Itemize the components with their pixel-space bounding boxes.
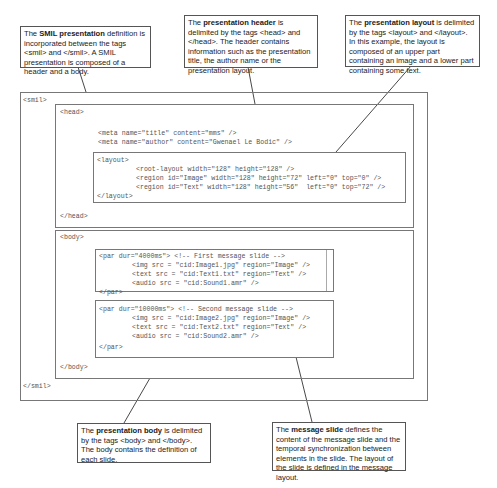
par1-text-line: <text src = "cid:Text1.txt" region="Text… (132, 270, 306, 279)
callout-text: The (349, 18, 364, 27)
par2-close-tag: </par> (99, 343, 123, 352)
meta-author-line: <meta name="author" content="Gwenael Le … (98, 138, 292, 147)
callout-bold-term: presentation layout (364, 18, 434, 27)
callout-bold-term: presentation header (203, 18, 276, 27)
region-image-line: <region id="Image" width="128" height="7… (136, 174, 381, 183)
region-text-line: <region id="Text" width="128" height="56… (136, 183, 385, 192)
callout-message-slide: The message slide defines the content of… (272, 422, 406, 471)
head-close-tag: </head> (60, 212, 88, 221)
callout-presentation-body: The presentation body is delimited by th… (77, 423, 211, 463)
smil-open-tag: <smil> (23, 96, 47, 105)
callout-text: The (276, 425, 291, 434)
callout-bold-term: message slide (291, 425, 343, 434)
body-close-tag: </body> (60, 363, 88, 372)
callout-text: The (188, 18, 203, 27)
callout-text: The (24, 29, 39, 38)
par2-audio-line: <audio src = "cid:Sound2.amr" /> (132, 332, 259, 341)
callout-presentation-layout: The presentation layout is delimited by … (345, 15, 480, 67)
callout-smil-presentation: The SMIL presentation definition is inco… (20, 26, 151, 68)
par1-img-line: <img src = "cid:Image1.jpg" region="Imag… (132, 261, 310, 270)
callout-text: The (81, 426, 96, 435)
par2-img-line: <img src = "cid:Image2.jpg" region="Imag… (132, 314, 310, 323)
par2-open-line: <par dur="10000ms"> <!-- Second message … (99, 305, 293, 314)
smil-close-tag: </smil> (23, 382, 51, 391)
par1-open-line: <par dur="4000ms"> <!-- First message sl… (99, 252, 285, 261)
callout-bold-term: presentation body (96, 426, 162, 435)
meta-title-line: <meta name="title" content="mms" /> (98, 129, 237, 138)
callout-bold-term: SMIL presentation (39, 29, 105, 38)
head-open-tag: <head> (60, 108, 84, 117)
par1-close-tag: </par> (99, 288, 123, 297)
divider-line (326, 250, 327, 291)
layout-open-tag: <layout> (97, 156, 129, 165)
par1-audio-line: <audio src = "cid:Sound1.amr" /> (132, 279, 259, 288)
layout-close-tag: </layout> (97, 192, 133, 201)
root-layout-line: <root-layout width="128" height="128" /> (136, 165, 294, 174)
body-open-tag: <body> (60, 233, 84, 242)
callout-presentation-header: The presentation header is delimited by … (184, 15, 318, 68)
par2-text-line: <text src = "cid:Text2.txt" region="Text… (132, 323, 306, 332)
